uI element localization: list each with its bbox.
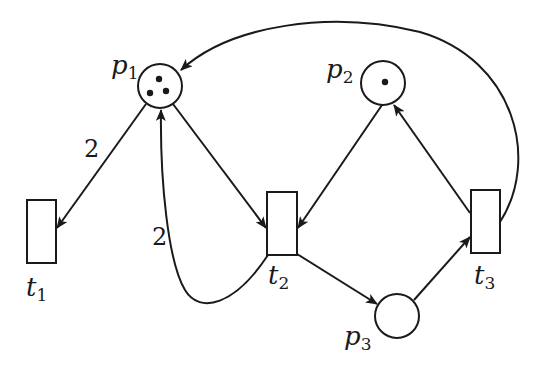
label-t1-sub: 1 [36, 285, 47, 305]
transition-t3 [471, 190, 500, 253]
label-p3-name: p [344, 321, 361, 351]
label-p2-name: p [326, 54, 343, 84]
label-p2-sub: 2 [343, 67, 354, 87]
label-p1-sub: 1 [128, 63, 139, 83]
transition-t2 [267, 192, 297, 255]
token-p2-1 [382, 79, 388, 85]
label-t3-sub: 3 [484, 273, 495, 293]
label-p3-sub: 3 [361, 334, 372, 354]
token-p1-1 [156, 76, 162, 82]
token-p1-2 [147, 90, 153, 96]
arc-t2-p3 [297, 254, 377, 304]
place-p3 [375, 294, 419, 338]
arc-t3-p2 [394, 105, 470, 213]
arc-t3-p1 [181, 22, 518, 222]
token-p1-3 [163, 88, 169, 94]
petri-net-diagram: p1 p2 p3 t1 t2 t3 2 2 [0, 0, 544, 368]
label-p3: p3 [344, 323, 371, 353]
label-t2-sub: 2 [278, 273, 289, 293]
label-t2-name: t [268, 260, 278, 290]
arc-p2-t2 [298, 105, 382, 228]
label-t3: t3 [474, 262, 495, 292]
arc-p3-t3 [414, 237, 470, 300]
label-t2: t2 [268, 262, 289, 292]
arc-p1-t1 [57, 104, 146, 228]
label-t3-name: t [474, 260, 484, 290]
label-t1: t1 [26, 274, 47, 304]
label-p1-name: p [111, 50, 128, 80]
transition-t1 [27, 200, 56, 263]
weight-p1-t1: 2 [84, 137, 99, 161]
weight-t2-p1: 2 [152, 225, 167, 249]
arc-t2-p1 [161, 110, 268, 303]
label-p2: p2 [326, 56, 353, 86]
label-t1-name: t [26, 272, 36, 302]
label-p1: p1 [111, 52, 138, 82]
place-p1 [138, 64, 182, 108]
petri-net-graphic [0, 0, 544, 368]
arc-p1-t2 [173, 104, 266, 228]
